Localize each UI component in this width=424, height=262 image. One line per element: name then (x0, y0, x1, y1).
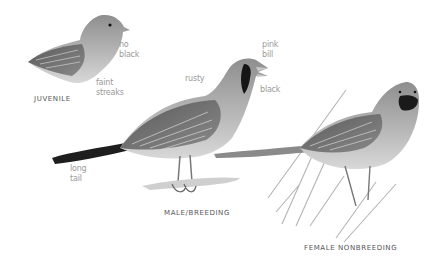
annotation-faint-streaks: faintstreaks (96, 78, 124, 98)
annotation-line: pink (262, 40, 278, 49)
bird-illustrations (0, 0, 424, 262)
caption-male-breeding: MALE/BREEDING (164, 209, 230, 217)
annotation-line: streaks (96, 88, 124, 97)
annotation-no-black: noblack (119, 40, 139, 60)
annotation-line: bill (262, 50, 273, 59)
annotation-line: long (70, 164, 86, 173)
annotation-line: no (119, 40, 129, 49)
annotation-rusty: rusty (185, 74, 204, 84)
annotation-long-tail: longtail (70, 164, 86, 184)
field-guide-plate: noblack faintstreaks JUVENILE pinkbill r… (0, 0, 424, 262)
caption-female-nonbreeding: FEMALE NONBREEDING (304, 244, 397, 252)
caption-juvenile: JUVENILE (34, 95, 71, 103)
annotation-pink-bill: pinkbill (262, 40, 278, 60)
juvenile-bird (28, 15, 130, 83)
annotation-line: tail (70, 174, 82, 183)
annotation-black: black (260, 85, 280, 95)
annotation-line: black (119, 50, 139, 59)
annotation-line: faint (96, 78, 113, 87)
